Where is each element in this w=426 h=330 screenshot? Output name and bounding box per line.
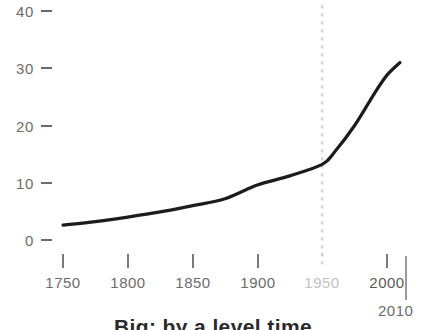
x-tick-mark-1950	[321, 254, 323, 268]
x-axis-tick-1950: 1950	[292, 254, 352, 292]
x-axis-tick-2000: 2000	[357, 254, 417, 292]
y-tick-dash-10	[41, 182, 52, 184]
x-axis-tick-1850: 1850	[163, 254, 223, 292]
y-tick-label-0: 0	[25, 233, 34, 248]
y-tick-label-30: 30	[16, 61, 34, 76]
x-tick-label-1950: 1950	[304, 274, 339, 291]
x-axis-tick-1900: 1900	[228, 254, 288, 292]
x-tick-mark-2000	[386, 254, 388, 268]
population-curve	[63, 63, 400, 226]
y-tick-dash-20	[41, 125, 52, 127]
x-tick-mark-1900	[257, 254, 259, 268]
x-tick-label-1900: 1900	[240, 274, 275, 291]
axis-end-rule	[405, 256, 407, 300]
x-tick-label-1750: 1750	[45, 274, 80, 291]
x-tick-mark-1850	[192, 254, 194, 268]
x-tick-label-2000: 2000	[369, 274, 404, 291]
y-tick-dash-40	[41, 10, 52, 12]
y-axis-tick-20: 20	[0, 117, 52, 135]
chart-title: Big: by a level time	[0, 316, 426, 330]
x-tick-label-1800: 1800	[110, 274, 145, 291]
y-axis-tick-10: 10	[0, 174, 52, 192]
y-tick-dash-30	[41, 67, 52, 69]
x-axis-tick-1800: 1800	[98, 254, 158, 292]
x-tick-mark-1750	[62, 254, 64, 268]
population-line-chart: 40 30 20 10 0 1750 1800 1850 1900 1950 2…	[0, 0, 426, 330]
y-tick-dash-0	[41, 239, 52, 241]
y-axis-tick-40: 40	[0, 2, 52, 20]
y-tick-label-40: 40	[16, 4, 34, 19]
y-tick-label-10: 10	[16, 176, 34, 191]
y-axis-tick-30: 30	[0, 59, 52, 77]
y-axis-tick-0: 0	[0, 231, 52, 249]
x-axis-tick-1750: 1750	[33, 254, 93, 292]
x-tick-label-1850: 1850	[175, 274, 210, 291]
y-tick-label-20: 20	[16, 119, 34, 134]
x-tick-mark-1800	[127, 254, 129, 268]
